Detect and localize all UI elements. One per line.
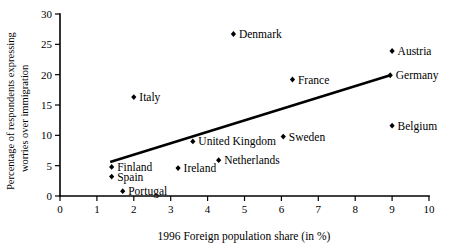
- y-axis-title-line1: Percentage of respondents expressing: [5, 32, 16, 190]
- data-point-marker: [109, 174, 114, 180]
- trend-line-group: [110, 75, 390, 162]
- data-point: Denmark: [231, 28, 282, 40]
- y-tick-label: 5: [47, 160, 53, 172]
- y-tick-label: 0: [47, 190, 53, 202]
- scatter-plot-figure: Percentage of respondents expressing wor…: [0, 0, 453, 248]
- data-point-label: Austria: [398, 45, 432, 57]
- data-point-label: France: [298, 74, 329, 86]
- data-point: Belgium: [390, 120, 438, 133]
- y-axis-title-line2: worries over immigration: [19, 64, 30, 172]
- x-tick-label: 9: [389, 203, 395, 215]
- y-tick-label: 10: [41, 129, 53, 141]
- data-point-label: Denmark: [239, 28, 282, 40]
- data-point-marker: [109, 164, 114, 170]
- data-point-label: Spain: [117, 171, 143, 184]
- data-point-marker: [120, 188, 125, 194]
- y-tick-label: 30: [41, 8, 53, 20]
- y-tick-label: 25: [41, 38, 53, 50]
- data-point: Ireland: [175, 162, 216, 174]
- x-tick-label: 3: [168, 203, 174, 215]
- x-tick-label: 4: [205, 203, 211, 215]
- x-axis-ticks: 012345678910: [57, 196, 435, 215]
- x-axis-title: 1996 Foreign population share (in %): [158, 230, 331, 243]
- axes-group: [60, 14, 429, 196]
- data-point-label: Italy: [139, 91, 160, 104]
- x-tick-label: 6: [279, 203, 285, 215]
- data-point-marker: [290, 77, 295, 83]
- data-point: Italy: [131, 91, 160, 104]
- data-point: Spain: [109, 171, 144, 184]
- data-point-marker: [131, 94, 136, 100]
- data-point-marker: [390, 48, 395, 54]
- data-point: France: [290, 74, 329, 86]
- data-point-marker: [216, 157, 221, 163]
- data-point-marker: [390, 123, 395, 129]
- x-tick-label: 2: [131, 203, 137, 215]
- y-tick-label: 15: [41, 99, 53, 111]
- x-tick-label: 10: [424, 203, 436, 215]
- x-tick-label: 8: [352, 203, 358, 215]
- data-point-label: Germany: [396, 69, 439, 82]
- x-tick-label: 5: [242, 203, 248, 215]
- data-points-group: FinlandSpainPortugalItalyIrelandUnited K…: [109, 28, 439, 198]
- chart-canvas: Percentage of respondents expressing wor…: [0, 0, 453, 248]
- data-point-label: Portugal: [128, 185, 167, 198]
- data-point: Sweden: [281, 131, 326, 143]
- x-tick-label: 7: [316, 203, 322, 215]
- data-point-marker: [175, 165, 180, 171]
- data-point-marker: [231, 31, 236, 37]
- regression-line: [110, 75, 390, 162]
- data-point-marker: [190, 139, 195, 145]
- y-axis-title: Percentage of respondents expressing wor…: [5, 32, 30, 190]
- data-point-marker: [388, 72, 393, 78]
- x-tick-label: 0: [57, 203, 63, 215]
- data-point: Germany: [388, 69, 439, 82]
- data-point: Netherlands: [216, 154, 280, 166]
- data-point: Austria: [390, 45, 432, 57]
- data-point-label: Belgium: [398, 120, 438, 133]
- data-point-label: Ireland: [184, 162, 217, 174]
- data-point-label: United Kingdom: [198, 135, 276, 148]
- y-axis-ticks: 051015202530: [41, 8, 60, 202]
- x-tick-label: 1: [94, 203, 100, 215]
- data-point-marker: [281, 134, 286, 140]
- data-point-label: Sweden: [289, 131, 326, 143]
- data-point: United Kingdom: [190, 135, 276, 148]
- data-point-label: Netherlands: [224, 154, 280, 166]
- y-tick-label: 20: [41, 69, 53, 81]
